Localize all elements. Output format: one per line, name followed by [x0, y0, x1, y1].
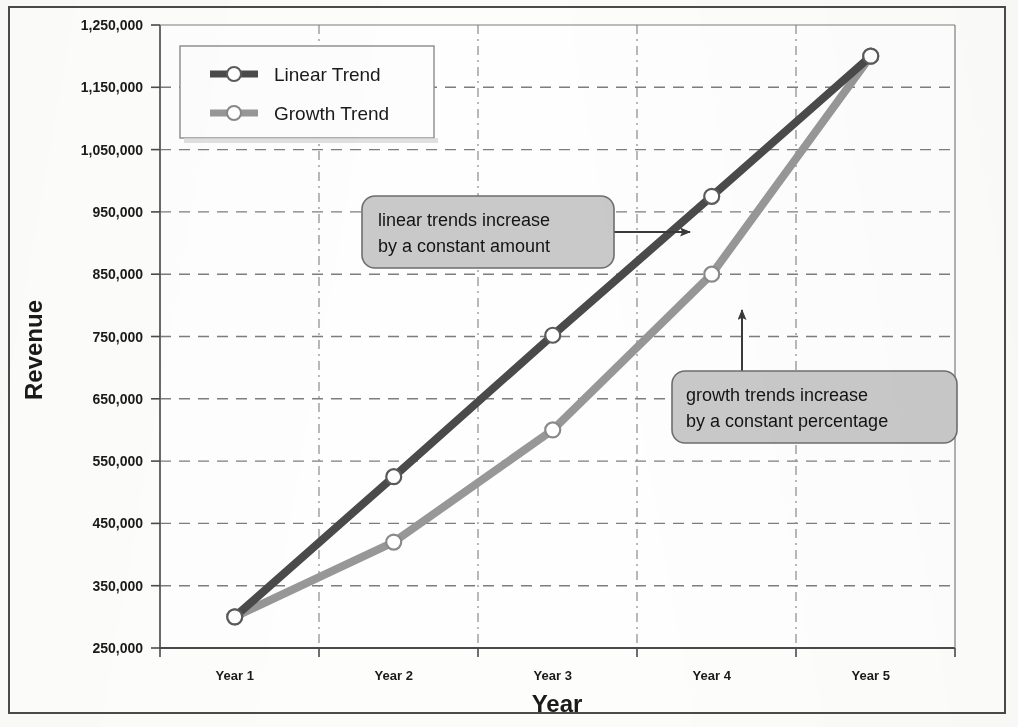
y-tick-label: 550,000 [92, 453, 143, 469]
x-category-label: Year 3 [534, 668, 572, 683]
data-point-marker[interactable] [704, 189, 719, 204]
legend-label-linear-trend: Linear Trend [274, 64, 381, 85]
chart-figure: 1,250,0001,150,0001,050,000950,000850,00… [0, 0, 1018, 727]
growth-callout-box [672, 371, 957, 443]
growth-callout-line-2: by a constant percentage [686, 411, 888, 431]
x-category-label: Year 4 [693, 668, 732, 683]
data-point-marker[interactable] [545, 422, 560, 437]
revenue-trend-line-chart: 1,250,0001,150,0001,050,000950,000850,00… [0, 0, 1018, 727]
y-tick-label: 450,000 [92, 515, 143, 531]
legend-marker-growth [227, 106, 241, 120]
legend-label-growth-trend: Growth Trend [274, 103, 389, 124]
y-tick-label: 1,050,000 [81, 142, 143, 158]
chart-legend[interactable]: Linear Trend Growth Trend [180, 46, 438, 143]
x-axis-title: Year [532, 690, 583, 717]
growth-callout-line-1: growth trends increase [686, 385, 868, 405]
y-tick-label: 750,000 [92, 329, 143, 345]
legend-marker-linear [227, 67, 241, 81]
data-point-marker[interactable] [386, 535, 401, 550]
y-axis-ticks: 1,250,0001,150,0001,050,000950,000850,00… [81, 17, 160, 656]
legend-shadow [184, 138, 438, 143]
x-category-label: Year 5 [852, 668, 890, 683]
legend-box [180, 46, 434, 138]
data-point-marker[interactable] [545, 328, 560, 343]
y-tick-label: 1,250,000 [81, 17, 143, 33]
y-tick-label: 650,000 [92, 391, 143, 407]
linear-callout-box [362, 196, 614, 268]
data-point-marker[interactable] [704, 267, 719, 282]
x-category-label: Year 1 [216, 668, 254, 683]
linear-callout-line-2: by a constant amount [378, 236, 550, 256]
y-tick-label: 850,000 [92, 266, 143, 282]
linear-callout-line-1: linear trends increase [378, 210, 550, 230]
y-axis-title: Revenue [20, 300, 47, 400]
x-axis-ticks: Year 1Year 2Year 3Year 4Year 5 [160, 648, 955, 683]
y-tick-label: 250,000 [92, 640, 143, 656]
y-tick-label: 350,000 [92, 578, 143, 594]
data-point-marker[interactable] [863, 49, 878, 64]
data-point-marker[interactable] [227, 609, 242, 624]
y-tick-label: 1,150,000 [81, 79, 143, 95]
x-category-label: Year 2 [375, 668, 413, 683]
y-tick-label: 950,000 [92, 204, 143, 220]
data-point-marker[interactable] [386, 469, 401, 484]
